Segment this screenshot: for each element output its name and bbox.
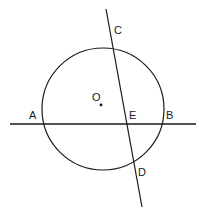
geometry-figure: A B C D E O (0, 0, 206, 215)
chord-line-CD (106, 9, 142, 207)
point-label-b: B (166, 110, 173, 121)
center-dot-icon (100, 104, 103, 107)
point-label-a: A (29, 110, 36, 121)
point-label-e: E (129, 110, 136, 121)
geometry-canvas (0, 0, 206, 215)
point-label-d: D (138, 167, 146, 178)
point-label-o: O (92, 92, 101, 103)
circle-O-outline (42, 48, 164, 170)
point-label-c: C (114, 25, 122, 36)
